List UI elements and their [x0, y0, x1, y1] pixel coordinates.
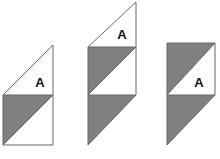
left-figure-label: A	[35, 75, 45, 90]
right-figure: A	[167, 43, 215, 145]
middle-figure-label: A	[117, 27, 127, 42]
diagram-canvas: AAA	[0, 0, 220, 159]
middle-figure: A	[88, 2, 136, 145]
shapes-svg: AAA	[0, 0, 220, 159]
right-figure-label: A	[194, 75, 204, 90]
left-figure: A	[3, 45, 53, 145]
